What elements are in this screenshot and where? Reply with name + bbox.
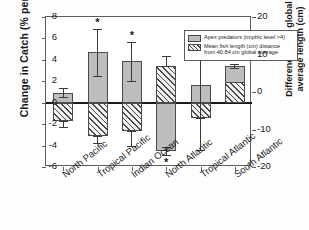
error-bar-apex (131, 42, 132, 82)
error-bar-fish-cap (59, 121, 68, 122)
error-bar-apex-cap (93, 29, 102, 30)
y-tick-label-left: 6 (35, 31, 57, 42)
legend-label-line1: Apex predators (trophic level >4) (204, 34, 285, 40)
x-axis-label-tropical-pacific: Tropical Pacific (95, 171, 102, 180)
y-tick-label-right: 10 (257, 48, 281, 59)
y-tick-right (252, 130, 256, 131)
bar-fish-length (225, 82, 245, 102)
y-tick-right (252, 92, 256, 93)
error-bar-fish-cap (93, 136, 102, 137)
y-tick-label-left: -4 (35, 139, 57, 150)
y-tick-label-left: 8 (35, 10, 57, 21)
y-axis-left-title: Change in Catch (% per year) (18, 0, 32, 118)
error-bar-fish-cap (162, 56, 171, 57)
y-tick-label-left: 0 (35, 96, 57, 107)
error-bar-fish-cap (162, 66, 171, 67)
chart-figure: Change in Catch (% per year) Difference … (0, 0, 309, 230)
legend-label: Apex predators (trophic level >4) (204, 34, 285, 40)
error-bar-fish-cap (127, 131, 136, 132)
error-bar-fish (200, 58, 201, 150)
zero-line (46, 102, 252, 104)
y-axis-right-title: Difference from global average length (c… (284, 0, 309, 124)
error-bar-apex-cap (230, 68, 239, 69)
x-axis-label-tropical-atlantic: Tropical Atlantic (198, 171, 205, 180)
error-bar-apex-cap (59, 88, 68, 89)
x-axis-label-north-atlantic: North Atlantic (163, 171, 170, 180)
bar-fish-length (156, 66, 176, 102)
y-tick-label-left: -2 (35, 117, 57, 128)
y-tick-label-left: 2 (35, 74, 57, 85)
error-bar-apex (97, 29, 98, 76)
legend-item: Apex predators (trophic level >4) (188, 34, 294, 42)
error-bar-apex-cap (127, 81, 136, 82)
significance-star: * (126, 31, 138, 39)
error-bar-apex-cap (127, 42, 136, 43)
x-axis-label-indian-ocean: Indian Ocean (129, 171, 136, 180)
bar-fish-length (88, 103, 108, 136)
error-bar-apex-cap (230, 64, 239, 65)
significance-star: * (92, 18, 104, 26)
error-bar-fish (166, 56, 167, 67)
x-axis-label-north-pacific: North Pacific (60, 171, 67, 180)
legend-swatch-solid-icon (188, 35, 201, 42)
y-tick-label-right: 20 (257, 10, 281, 21)
error-bar-apex-cap (93, 76, 102, 77)
bar-fish-length (122, 103, 142, 131)
y-tick-label-left: -6 (35, 160, 57, 171)
y-tick-right (252, 17, 256, 18)
y-tick-label-right: 0 (257, 85, 281, 96)
error-bar-apex-cap (59, 97, 68, 98)
error-bar-apex (63, 88, 64, 98)
x-axis-label-south-atlantic: South Atlantic (232, 171, 239, 180)
legend-swatch-hatch-icon (188, 44, 201, 51)
error-bar-fish-cap (59, 127, 68, 128)
y-tick-label-right: -10 (257, 123, 281, 134)
y-tick-label-left: 4 (35, 53, 57, 64)
